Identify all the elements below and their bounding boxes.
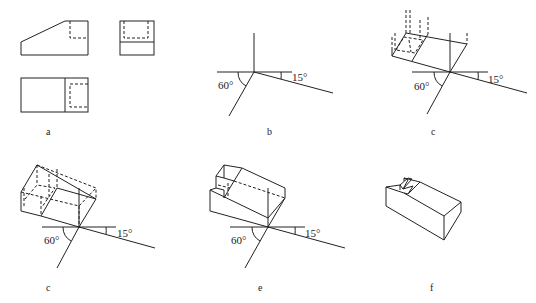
panel-a: a [21,21,154,137]
angle-15-label: 15° [292,71,307,83]
top-view [21,78,88,112]
angle-60-label: 60° [44,234,59,246]
panel-b: 60° 15° b [217,33,333,137]
angle-60-label: 60° [231,234,246,246]
angle-60-label: 60° [218,79,233,91]
panel-a-label: a [46,126,51,137]
panel-b-label: b [267,126,272,137]
figure-canvas: a 60° 15° b 60° 15° c [0,0,536,303]
panel-e: 60° 15° e [210,165,345,293]
angle-15-label: 15° [305,227,320,239]
angle-15-label: 15° [117,227,132,239]
panel-c2-label: c [46,282,51,293]
side-view [120,21,154,55]
angle-15-label: 15° [488,73,503,85]
panel-f: f [386,178,461,293]
panel-c1-label: c [431,126,436,137]
panel-c1: 60° 15° c [392,10,527,137]
angle-60-label: 60° [414,80,429,92]
panel-f-label: f [430,282,434,293]
front-view [21,21,88,55]
panel-e-label: e [258,282,263,293]
panel-c2: 60° 15° c [21,165,155,293]
